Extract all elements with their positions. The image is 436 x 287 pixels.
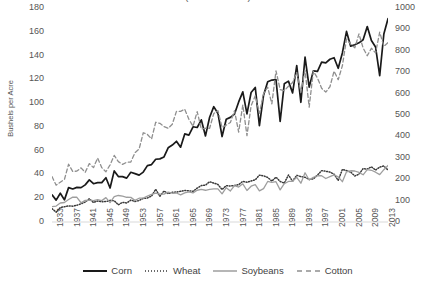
series-line-wheat xyxy=(52,166,388,212)
y-tick-left: 0 xyxy=(16,217,44,226)
legend-label: Cotton xyxy=(325,266,353,276)
y-tick-right: 900 xyxy=(395,24,429,33)
legend-item-wheat[interactable]: Wheat xyxy=(145,266,200,276)
y-tick-right: 400 xyxy=(395,131,429,140)
plot-area xyxy=(52,8,388,222)
legend-swatch-corn-icon xyxy=(83,267,107,275)
legend-label: Corn xyxy=(111,266,132,276)
y-tick-left: 140 xyxy=(16,51,44,60)
legend-item-corn[interactable]: Corn xyxy=(83,266,132,276)
plot-svg xyxy=(52,8,388,224)
legend-label: Soybeans xyxy=(241,266,283,276)
y-tick-left: 80 xyxy=(16,122,44,131)
legend-swatch-soybeans-icon xyxy=(213,267,237,275)
legend-swatch-wheat-icon xyxy=(145,267,169,275)
y-tick-left: 40 xyxy=(16,169,44,178)
y-tick-right: 200 xyxy=(395,174,429,183)
legend-label: Wheat xyxy=(173,266,200,276)
y-tick-left: 180 xyxy=(16,3,44,12)
y-tick-right: 300 xyxy=(395,153,429,162)
y-tick-right: 600 xyxy=(395,89,429,98)
y-tick-left: 100 xyxy=(16,98,44,107)
legend-item-cotton[interactable]: Cotton xyxy=(297,266,353,276)
y-tick-left: 60 xyxy=(16,146,44,155)
chart-legend: CornWheatSoybeansCotton xyxy=(0,266,436,276)
chart-title: (USDA NASS) xyxy=(0,0,436,2)
y-tick-right: 1000 xyxy=(395,3,429,12)
y-axis-left-title: Bushels per Acre xyxy=(6,72,15,146)
y-tick-left: 120 xyxy=(16,74,44,83)
y-tick-right: 500 xyxy=(395,110,429,119)
y-tick-left: 20 xyxy=(16,193,44,202)
chart-root: (USDA NASS) Bushels per Acre 02040608010… xyxy=(0,0,436,287)
y-tick-right: 100 xyxy=(395,196,429,205)
y-tick-right: 0 xyxy=(395,217,429,226)
y-tick-left: 160 xyxy=(16,27,44,36)
legend-swatch-cotton-icon xyxy=(297,267,321,275)
x-tick: 2013 xyxy=(388,208,397,227)
y-tick-right: 800 xyxy=(395,46,429,55)
series-line-corn xyxy=(52,19,388,200)
legend-item-soybeans[interactable]: Soybeans xyxy=(213,266,283,276)
y-tick-right: 700 xyxy=(395,67,429,76)
series-line-cotton xyxy=(52,32,388,185)
